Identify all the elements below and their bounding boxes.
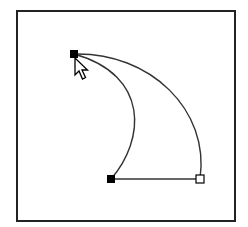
bottom-left-anchor-point[interactable] [107,175,115,183]
bottom-right-anchor-point[interactable] [196,175,204,183]
top-anchor-point[interactable] [70,50,78,58]
path-diagram-canvas [0,0,248,227]
artboard-frame [17,11,235,221]
arrow-pointer-icon [75,58,88,79]
outer-curve-segment[interactable] [74,54,201,179]
